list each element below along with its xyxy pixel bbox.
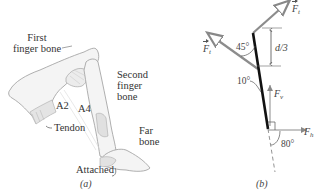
force-ft-left-arrow	[209, 34, 258, 69]
bone-line	[253, 33, 268, 129]
label-fv: Fv	[274, 88, 283, 101]
leader-tendon	[46, 126, 52, 128]
caption-b: (b)	[256, 178, 268, 189]
dimension-label-d3: d/3	[275, 42, 288, 53]
label-second-finger-bone: Second finger bone	[117, 69, 148, 102]
angle-label-10: 10°	[237, 76, 250, 86]
angle-label-80: 80°	[281, 139, 294, 149]
label-tendon: Tendon	[54, 122, 85, 133]
angle-arc-80	[271, 131, 280, 145]
caption-a: (a)	[80, 178, 92, 189]
angle-leader-10	[250, 81, 261, 92]
label-ft-left: Ft	[203, 43, 211, 56]
force-diagram-drawing	[157, 0, 314, 193]
panel-a-finger-illustration: First finger bone Second finger bone Far…	[0, 0, 157, 193]
label-attached: Attached	[76, 164, 114, 175]
label-a4: A4	[78, 103, 91, 114]
label-ft-upper: Ft	[292, 3, 300, 16]
bone-extension-dashed	[268, 129, 275, 172]
force-ft-upper-arrow	[253, 2, 288, 33]
label-a2: A2	[56, 100, 69, 111]
label-fh: Fh	[304, 126, 314, 139]
label-first-finger-bone: First finger bone	[10, 32, 64, 54]
angle-label-45: 45°	[236, 42, 249, 52]
panel-b-force-diagram: Ft Ft Fv Fh 45° 10° 80° d/3 (b)	[157, 0, 314, 193]
